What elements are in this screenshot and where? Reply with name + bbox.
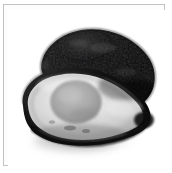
flesh-highlight-right: [106, 99, 142, 117]
pit-cavity-shadow: [70, 108, 98, 120]
photo-frame: Grayscale photograph of an avocado slice…: [3, 4, 165, 166]
skin-fleck-c: [69, 40, 87, 47]
pit-cavity-highlight: [58, 87, 82, 103]
pit-cavity: [51, 81, 101, 123]
skin-fleck-b: [115, 68, 137, 76]
flesh-speck-b: [82, 129, 90, 133]
avocado-photograph: [8, 10, 168, 170]
skin-fleck-a: [90, 43, 116, 53]
screenshot-root: Grayscale photograph of an avocado slice…: [0, 0, 172, 173]
flesh-speck-c: [49, 120, 55, 124]
flesh-speck-a: [64, 125, 76, 130]
photo-image: Grayscale photograph of an avocado slice…: [8, 10, 168, 170]
